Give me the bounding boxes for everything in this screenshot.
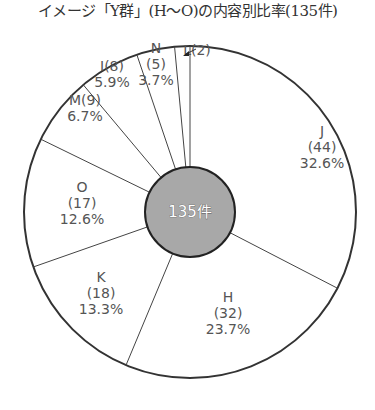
center-total-label: 135件 bbox=[168, 203, 212, 221]
svg-text:(44): (44) bbox=[308, 139, 337, 155]
svg-text:13.3%: 13.3% bbox=[79, 301, 123, 317]
svg-text:O: O bbox=[76, 179, 87, 195]
svg-text:(32): (32) bbox=[214, 305, 243, 321]
svg-text:32.6%: 32.6% bbox=[300, 155, 344, 171]
svg-text:K: K bbox=[96, 269, 106, 285]
svg-text:5.9%: 5.9% bbox=[94, 74, 130, 90]
slice-label-m: M(9)6.7% bbox=[67, 92, 103, 124]
svg-text:(5): (5) bbox=[146, 56, 166, 72]
svg-text:3.7%: 3.7% bbox=[138, 72, 174, 88]
svg-text:N: N bbox=[151, 40, 161, 56]
pie-chart: J(44)32.6%H(32)23.7%K(18)13.3%O(17)12.6%… bbox=[0, 0, 375, 410]
svg-text:H: H bbox=[223, 289, 234, 305]
svg-text:23.7%: 23.7% bbox=[206, 321, 250, 337]
svg-text:(17): (17) bbox=[68, 195, 97, 211]
svg-text:I(8): I(8) bbox=[100, 58, 124, 74]
svg-text:6.7%: 6.7% bbox=[67, 108, 103, 124]
svg-text:12.6%: 12.6% bbox=[60, 211, 104, 227]
svg-text:J: J bbox=[319, 123, 324, 139]
slice-label-l: L(2) bbox=[183, 42, 211, 58]
svg-text:(18): (18) bbox=[87, 285, 116, 301]
